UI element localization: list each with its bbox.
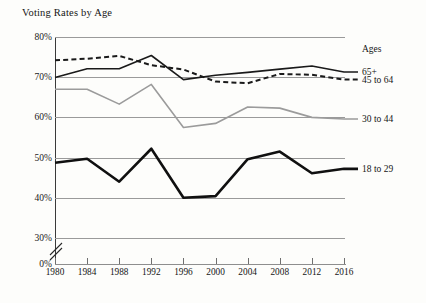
legend-label-45-to-64: 45 to 64 <box>362 75 393 85</box>
series-line-45-to-64 <box>55 56 358 83</box>
series-line-30-to-44 <box>55 84 358 127</box>
legend-label-30-to-44: 30 to 44 <box>362 114 393 124</box>
chart-container: Voting Rates by Age 0%30%40%50%60%70%80%… <box>0 0 426 303</box>
series-line-65+ <box>55 55 358 79</box>
series-line-18-to-29 <box>55 149 358 198</box>
legend-title: Ages <box>362 44 382 54</box>
legend-label-18-to-29: 18 to 29 <box>362 164 393 174</box>
